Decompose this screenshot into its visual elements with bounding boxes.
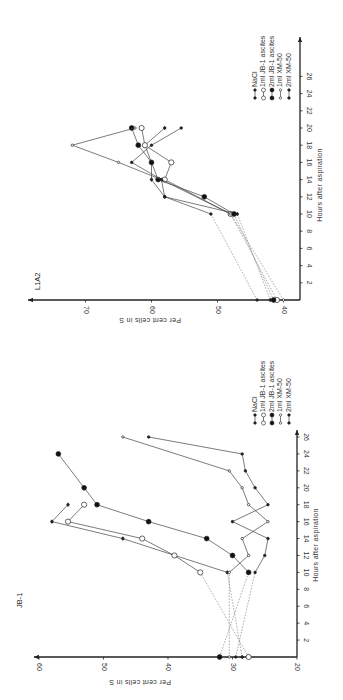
data-point: [95, 502, 100, 507]
series-1ml-xm-50: [71, 127, 285, 301]
data-point: [169, 160, 174, 165]
y-tick-label: 40: [281, 306, 288, 314]
x-tick-label: 20: [306, 124, 313, 132]
data-point: [202, 194, 207, 199]
x-tick-label: 24: [303, 450, 310, 458]
y-tick-label: 20: [294, 663, 301, 671]
series-2ml-xm-50: [147, 436, 269, 659]
x-tick-label: 16: [303, 518, 310, 526]
x-tick-label: 22: [303, 467, 310, 475]
legend: NaCl1ml JB-1 ascites2ml JB-1 ascites1ml …: [251, 360, 292, 425]
y-tick-label: 70: [83, 306, 90, 314]
data-point: [117, 161, 119, 163]
x-tick-label: 6: [306, 246, 313, 250]
data-point: [247, 554, 249, 556]
series-2ml-jb-1-ascites: [56, 452, 251, 660]
data-point: [241, 453, 244, 456]
data-point: [140, 536, 145, 541]
data-point: [139, 125, 144, 130]
x-tick-label: 6: [303, 604, 310, 608]
data-point: [230, 553, 235, 558]
data-point: [263, 554, 266, 557]
chart-jb-1: 20304050602468101214161820222426JB-1Per …: [15, 360, 320, 686]
data-point: [163, 196, 166, 199]
x-tick-label: 22: [306, 107, 313, 115]
x-tick-label: 10: [306, 210, 313, 218]
series-nacl: [144, 126, 272, 302]
x-tick-label: 18: [303, 501, 310, 509]
x-tick-label: 8: [306, 229, 313, 233]
data-point: [267, 537, 270, 540]
data-point: [122, 436, 124, 438]
series-1ml-xm-50: [122, 436, 270, 658]
legend-label: 2ml JB-1 ascites: [268, 35, 275, 87]
legend-marker-icon: [262, 96, 266, 100]
y-tick-label: 50: [101, 663, 108, 671]
arrow-up-icon: [298, 37, 302, 42]
legend-marker-icon: [270, 421, 274, 425]
x-tick-label: 26: [306, 73, 313, 81]
legend-label: 1ml JB-1 ascites: [259, 35, 266, 87]
data-point: [228, 656, 230, 658]
y-axis-label: Per cent cells in S: [119, 317, 181, 324]
data-point: [254, 571, 257, 574]
data-point: [282, 299, 284, 301]
arrow-left-icon: [34, 655, 39, 659]
data-point: [267, 520, 269, 522]
data-point: [256, 299, 259, 302]
legend-label: NaCl: [251, 396, 258, 412]
series-nacl: [51, 503, 244, 659]
data-point: [134, 127, 136, 129]
x-tick-label: 12: [303, 552, 310, 560]
data-point: [217, 655, 222, 660]
data-point: [142, 143, 147, 148]
legend-label: 1ml XM-50: [276, 53, 283, 87]
x-tick-label: 10: [303, 569, 310, 577]
legend-marker-icon: [262, 421, 266, 425]
data-point: [65, 519, 70, 524]
data-point: [246, 570, 251, 575]
data-point: [146, 519, 151, 524]
data-point: [172, 553, 177, 558]
data-point: [241, 537, 243, 539]
data-point: [147, 436, 150, 439]
figure: 20304050602468101214161820222426JB-1Per …: [0, 0, 343, 700]
data-point: [180, 127, 183, 130]
y-tick-label: 30: [230, 663, 237, 671]
series-2ml-jb-1-ascites: [129, 126, 276, 303]
y-tick-label: 40: [165, 663, 172, 671]
y-axis-label: Per cent cells in S: [109, 679, 171, 686]
x-tick-label: 14: [303, 535, 310, 543]
x-tick-label: 14: [306, 176, 313, 184]
chart-title: L1A2: [33, 272, 42, 290]
data-point: [234, 656, 237, 659]
series-1ml-jb-1-ascites: [65, 502, 251, 659]
data-point: [271, 298, 276, 303]
legend-label: 2ml JB-1 ascites: [268, 360, 275, 412]
data-point: [241, 487, 243, 489]
series-2ml-xm-50: [130, 127, 258, 302]
legend-marker-icon: [254, 422, 257, 425]
x-tick-label: 8: [303, 587, 310, 591]
legend-marker-icon: [288, 97, 291, 100]
data-point: [149, 160, 154, 165]
data-point: [150, 144, 153, 147]
data-point: [232, 212, 237, 217]
data-point: [82, 502, 87, 507]
legend-label: 1ml XM-50: [276, 378, 283, 412]
x-tick-label: 12: [306, 193, 313, 201]
data-point: [204, 536, 209, 541]
data-point: [267, 503, 270, 506]
data-point: [254, 487, 257, 490]
legend-label: NaCl: [251, 71, 258, 87]
x-tick-label: 26: [303, 433, 310, 441]
legend-label: 2ml XM-50: [285, 378, 292, 412]
x-tick-label: 16: [306, 159, 313, 167]
legend-label: 2ml XM-50: [285, 53, 292, 87]
data-point: [71, 144, 73, 146]
data-point: [231, 520, 234, 523]
data-point: [246, 654, 251, 659]
legend-marker-icon: [288, 422, 291, 425]
y-tick-label: 60: [149, 306, 156, 314]
data-point: [82, 485, 87, 490]
